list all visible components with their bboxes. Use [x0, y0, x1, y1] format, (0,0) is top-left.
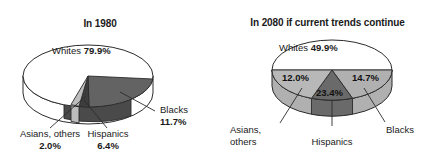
pie-2080-label-whites-name: Whites — [279, 42, 308, 53]
chart-panel-1980: In 1980 — [0, 0, 218, 160]
pie-2080-label-whites: Whites 49.9% — [279, 42, 338, 54]
pie-1980-label-hispanics-value: 6.4% — [97, 140, 119, 151]
pie-2080-label-asians-name-line2: others — [230, 136, 261, 148]
pie-2080-value-hispanics: 23.4% — [316, 87, 343, 98]
chart-panel-2080: In 2080 if current trends continue Whi — [218, 0, 437, 160]
pie-1980-side-wall-light — [71, 105, 79, 123]
pie-1980-label-whites-name: Whites — [52, 45, 81, 56]
pie-1980-label-whites-value: 79.9% — [84, 45, 111, 56]
pie-2080-label-whites-value: 49.9% — [311, 42, 338, 53]
pie-2080-label-hispanics-name: Hispanics — [311, 136, 352, 147]
pie-1980-label-blacks: Blacks 11.7% — [160, 104, 188, 127]
pie-2080-value-asians: 12.0% — [282, 72, 309, 83]
pie-1980-label-hispanics-name: Hispanics — [78, 128, 138, 140]
pie-1980-label-blacks-value: 11.7% — [160, 116, 186, 127]
pie-2080-label-asians-name-line1: Asians, — [230, 124, 261, 136]
pie-2080-label-blacks-name: Blacks — [386, 124, 414, 135]
two-pie-chart-figure: In 1980 — [0, 0, 437, 160]
pie-2080-label-asians: Asians, others — [230, 124, 261, 147]
pie-1980-label-blacks-name: Blacks — [160, 104, 188, 116]
pie-1980-label-whites: Whites 79.9% — [52, 45, 111, 57]
pie-1980-label-hispanics: Hispanics 6.4% — [78, 128, 138, 151]
pie-1980-label-asians-value: 2.0% — [39, 140, 61, 151]
pie-2080-label-blacks: Blacks — [386, 124, 414, 136]
pie-2080-label-hispanics: Hispanics — [300, 136, 364, 148]
pie-2080-value-blacks: 14.7% — [352, 72, 379, 83]
